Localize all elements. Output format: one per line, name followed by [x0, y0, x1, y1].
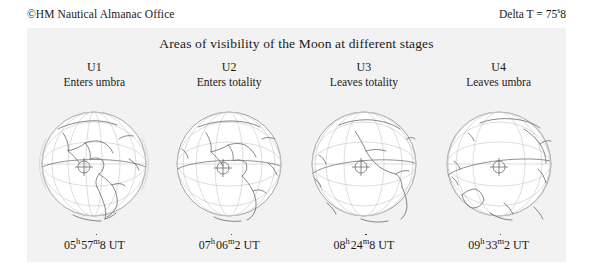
- globe-diagram-u4: [438, 103, 560, 225]
- hour-unit: h: [480, 236, 484, 246]
- stage-time-u3: 08h 24m8 UT: [297, 238, 432, 258]
- stage-code: U4: [431, 60, 566, 75]
- time-fraction: 2: [504, 238, 510, 252]
- globe-row: [27, 98, 566, 230]
- globe-diagram-u3: [303, 103, 425, 225]
- time-scale: UT: [244, 238, 260, 252]
- stage-label-u2: U2 Enters totality: [162, 60, 297, 94]
- stage-description: Enters umbra: [27, 75, 162, 90]
- delta-t-fraction: 8: [560, 8, 566, 20]
- globe-cell-u2: [162, 98, 297, 230]
- figure-title: Areas of visibility of the Moon at diffe…: [0, 36, 593, 52]
- time-minutes: 33: [485, 238, 497, 252]
- time-scale: UT: [109, 238, 125, 252]
- stage-description: Leaves umbra: [431, 75, 566, 90]
- stage-code: U2: [162, 60, 297, 75]
- minute-unit: m: [497, 236, 504, 246]
- time-scale: UT: [513, 238, 529, 252]
- minute-unit: m: [93, 236, 100, 246]
- time-scale: UT: [378, 238, 394, 252]
- stage-description: Enters totality: [162, 75, 297, 90]
- time-hours: 09: [468, 238, 480, 252]
- time-minutes: 24: [351, 238, 363, 252]
- stage-description: Leaves totality: [297, 75, 432, 90]
- time-hours: 05: [64, 238, 76, 252]
- time-minutes: 06: [216, 238, 228, 252]
- stage-code: U3: [297, 60, 432, 75]
- stage-label-row: U1 Enters umbra U2 Enters totality U3 Le…: [27, 60, 566, 94]
- time-minutes: 57: [81, 238, 93, 252]
- stage-time-u4: 09h 33m2 UT: [431, 238, 566, 258]
- header-row: ©HM Nautical Almanac Office Delta T = 75…: [0, 8, 593, 24]
- globe-diagram-u1: [33, 103, 155, 225]
- time-label-row: 05h 57m8 UT 07h 06m2 UT 08h 24m8 UT 09h …: [27, 238, 566, 258]
- hour-unit: h: [345, 236, 349, 246]
- time-hours: 08: [333, 238, 345, 252]
- hour-unit: h: [211, 236, 215, 246]
- stage-label-u4: U4 Leaves umbra: [431, 60, 566, 94]
- time-fraction: 8: [369, 238, 375, 252]
- minute-unit: m: [228, 236, 235, 246]
- time-fraction: 2: [235, 238, 241, 252]
- time-fraction: 8: [100, 238, 106, 252]
- stage-code: U1: [27, 60, 162, 75]
- stage-label-u1: U1 Enters umbra: [27, 60, 162, 94]
- copyright-credit: ©HM Nautical Almanac Office: [27, 8, 175, 20]
- stage-label-u3: U3 Leaves totality: [297, 60, 432, 94]
- delta-t-label: Delta T =: [499, 8, 543, 20]
- delta-t-integer: 75: [546, 8, 558, 20]
- delta-t-readout: Delta T = 75s8: [499, 8, 566, 20]
- hour-unit: h: [76, 236, 80, 246]
- globe-cell-u4: [431, 98, 566, 230]
- stage-time-u2: 07h 06m2 UT: [162, 238, 297, 258]
- globe-cell-u3: [297, 98, 432, 230]
- stage-time-u1: 05h 57m8 UT: [27, 238, 162, 258]
- globe-cell-u1: [27, 98, 162, 230]
- globe-diagram-u2: [168, 103, 290, 225]
- eclipse-visibility-figure: ©HM Nautical Almanac Office Delta T = 75…: [0, 0, 593, 275]
- time-hours: 07: [199, 238, 211, 252]
- minute-unit: m: [363, 236, 370, 246]
